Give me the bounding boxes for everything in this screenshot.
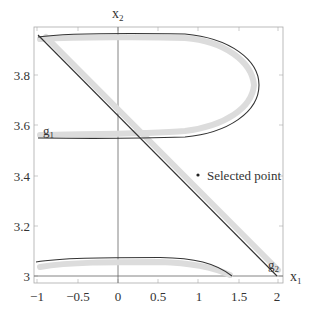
y-tick: 3.8 [14,68,30,83]
x-axis-label: x1 [290,269,302,286]
y-tick: 3.4 [14,169,31,184]
chart-plot: Selected point g1 g2 x2 x1 −1 −0.5 0 0.5… [0,0,311,310]
x-tick: 0 [115,289,122,304]
x-tick: 1.5 [231,289,247,304]
x-tick: −1 [30,289,44,304]
selected-point-marker [196,173,199,176]
y-tick: 3.2 [14,219,30,234]
y-tick: 3.6 [14,118,31,133]
x-tick: 1 [196,289,203,304]
y-axis-label: x2 [112,6,124,23]
x-tick: 2 [274,289,281,304]
g2-line [38,35,277,276]
y-tick-labels: 3 3.2 3.4 3.6 3.8 [14,68,31,284]
y-tick: 3 [24,269,31,284]
x-tick: −0.5 [66,289,90,304]
selected-point-label: Selected point [207,168,281,183]
x-tick-labels: −1 −0.5 0 0.5 1 1.5 2 [30,289,280,304]
g1-label: g1 [43,123,54,140]
g2-label: g2 [268,257,279,274]
x-tick: 0.5 [150,289,166,304]
